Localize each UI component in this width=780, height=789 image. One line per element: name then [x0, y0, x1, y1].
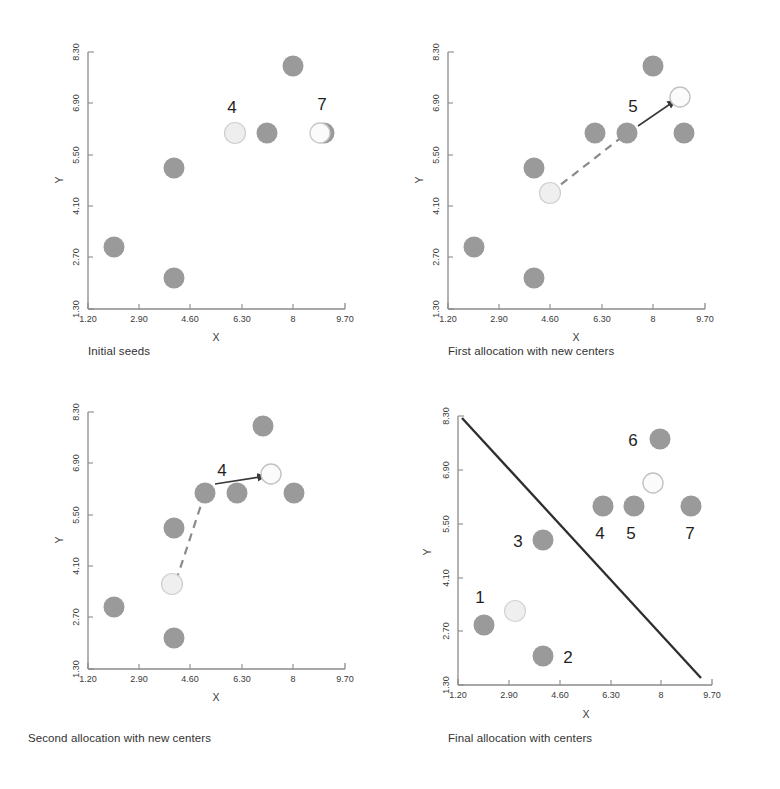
x-axis-title: X [582, 708, 589, 720]
data-point [650, 429, 671, 450]
cluster-center [643, 473, 663, 493]
ytick-label: 6.90 [71, 454, 81, 472]
ytick-label: 4.10 [431, 197, 441, 215]
point-annotation: 2 [563, 648, 572, 667]
data-point [681, 496, 702, 517]
xtick-label: 9.70 [703, 690, 721, 700]
plot-first-allocation: 1.20 2.90 4.60 6.30 8 9.70 1.30 2.70 4.1… [390, 0, 780, 394]
xtick-label: 1.20 [79, 674, 97, 684]
ytick-label: 8.30 [441, 407, 451, 425]
point-annotation: 4 [595, 524, 604, 543]
xtick-label: 8 [650, 314, 655, 324]
axes [88, 412, 345, 669]
data-point [643, 56, 664, 77]
xtick-label: 2.90 [130, 314, 148, 324]
xtick-label: 4.60 [541, 314, 559, 324]
ytick-label: 5.50 [431, 146, 441, 164]
movement-arrow [638, 100, 676, 126]
ytick-label: 4.10 [441, 569, 451, 587]
xtick-label: 2.90 [130, 674, 148, 684]
data-point [283, 56, 304, 77]
data-point [164, 268, 185, 289]
xtick-label: 8 [290, 314, 295, 324]
data-point [585, 123, 606, 144]
ytick-label: 4.10 [71, 197, 81, 215]
xtick-label: 9.70 [336, 674, 354, 684]
xtick-label: 6.30 [233, 314, 251, 324]
cluster-center [505, 601, 526, 622]
data-point [195, 483, 216, 504]
data-points [464, 56, 695, 289]
point-annotation: 3 [513, 532, 522, 551]
data-point [593, 496, 614, 517]
xtick-label: 8 [658, 690, 663, 700]
panel-caption: First allocation with new centers [448, 345, 614, 357]
data-point [617, 123, 638, 144]
panel-caption: Final allocation with centers [448, 732, 592, 744]
data-point [104, 597, 125, 618]
ytick-label: 8.30 [431, 43, 441, 61]
data-point [674, 123, 695, 144]
point-annotation: 4 [227, 98, 236, 117]
ytick-label: 6.90 [431, 94, 441, 112]
decision-boundary-line [462, 418, 701, 678]
point-annotation: 4 [217, 461, 226, 480]
ytick-label: 1.30 [71, 660, 81, 678]
axes [88, 52, 345, 309]
data-point [257, 123, 278, 144]
center-points [505, 473, 664, 622]
panel-initial-seeds: 1.20 2.90 4.60 6.30 8 9.70 1.30 2.70 4.1… [0, 0, 390, 394]
data-points [474, 429, 702, 667]
plot-final-allocation: 1.20 2.90 4.60 6.30 8 9.70 1.30 2.70 4.1… [390, 394, 780, 788]
movement-path [550, 133, 627, 193]
panel-first-allocation: 1.20 2.90 4.60 6.30 8 9.70 1.30 2.70 4.1… [390, 0, 780, 394]
data-point [227, 483, 248, 504]
data-points [104, 56, 335, 289]
xtick-label: 9.70 [336, 314, 354, 324]
ytick-label: 1.30 [431, 300, 441, 318]
xtick-label: 4.60 [181, 314, 199, 324]
xtick-label: 4.60 [181, 674, 199, 684]
panel-caption: Second allocation with new centers [28, 732, 211, 744]
data-point [284, 483, 305, 504]
ytick-label: 2.70 [71, 608, 81, 626]
point-annotation: 5 [628, 97, 637, 116]
y-axis-title: Y [53, 536, 65, 543]
point-annotation: 7 [685, 524, 694, 543]
ytick-label: 8.30 [71, 43, 81, 61]
ytick-label: 5.50 [441, 515, 451, 533]
cluster-center [261, 464, 281, 484]
cluster-center [162, 574, 183, 595]
point-annotation: 7 [317, 95, 326, 114]
ytick-label: 4.10 [71, 557, 81, 575]
xtick-label: 1.20 [449, 690, 467, 700]
data-point [164, 628, 185, 649]
xtick-label: 6.30 [233, 674, 251, 684]
xtick-label: 6.30 [593, 314, 611, 324]
cluster-center [670, 87, 690, 107]
ytick-label: 6.90 [71, 94, 81, 112]
seed-point [310, 123, 330, 143]
axes [448, 52, 705, 309]
xtick-label: 2.90 [490, 314, 508, 324]
xtick-label: 6.30 [602, 690, 620, 700]
panel-caption: Initial seeds [88, 345, 150, 357]
x-axis-title: X [212, 331, 219, 343]
ytick-label: 1.30 [441, 676, 451, 694]
data-point [164, 158, 185, 179]
data-point [533, 646, 554, 667]
plot-initial-seeds: 1.20 2.90 4.60 6.30 8 9.70 1.30 2.70 4.1… [0, 0, 390, 394]
point-annotation: 1 [475, 588, 484, 607]
data-point [524, 268, 545, 289]
y-axis-title: Y [421, 548, 433, 555]
y-axis-title: Y [413, 176, 425, 183]
data-point [624, 496, 645, 517]
ytick-label: 6.90 [441, 461, 451, 479]
center-points [540, 87, 691, 204]
y-axis-title: Y [53, 176, 65, 183]
cluster-center [540, 183, 561, 204]
panel-final-allocation: 1.20 2.90 4.60 6.30 8 9.70 1.30 2.70 4.1… [390, 394, 780, 788]
point-annotation: 5 [626, 524, 635, 543]
ytick-label: 2.70 [431, 248, 441, 266]
movement-path [176, 499, 203, 581]
